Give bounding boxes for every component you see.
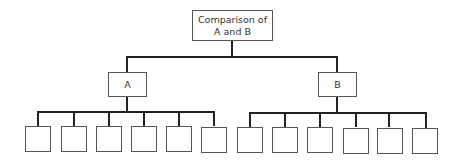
leaf-b2-connector bbox=[284, 112, 286, 127]
leaf-a6 bbox=[201, 127, 227, 153]
leaf-a6-connector bbox=[213, 111, 215, 126]
leaf-a2-connector bbox=[73, 111, 75, 126]
level1-bar bbox=[126, 56, 338, 58]
node-a-label: A bbox=[124, 79, 131, 90]
node-b-label: B bbox=[334, 79, 341, 90]
root-node-label: Comparison of A and B bbox=[198, 14, 267, 38]
root-node: Comparison of A and B bbox=[192, 10, 273, 41]
leaf-a1 bbox=[25, 126, 51, 152]
leaf-a3 bbox=[96, 126, 122, 152]
leaf-b5-connector bbox=[388, 112, 390, 127]
connector-a bbox=[126, 56, 128, 73]
leaf-a2 bbox=[61, 126, 87, 152]
leaf-b4 bbox=[343, 128, 369, 154]
root-label-line1: Comparison of bbox=[198, 14, 267, 26]
leaf-b6-connector bbox=[425, 112, 427, 128]
root-label-line2: A and B bbox=[198, 26, 267, 38]
leaf-b3-connector bbox=[319, 112, 321, 127]
comparison-tree-diagram: Comparison of A and B A B bbox=[0, 0, 461, 164]
leaf-a4 bbox=[131, 126, 157, 152]
connector-b bbox=[336, 56, 338, 73]
leaf-a1-connector bbox=[37, 111, 39, 126]
leaf-b3 bbox=[307, 127, 333, 153]
leaf-a4-connector bbox=[143, 111, 145, 126]
leaf-b1 bbox=[237, 127, 263, 153]
leaf-b6 bbox=[412, 128, 438, 154]
leaf-b4-connector bbox=[355, 112, 357, 127]
leaf-b2 bbox=[272, 127, 298, 153]
leaf-a5 bbox=[166, 126, 192, 152]
level2-bar-b bbox=[249, 112, 427, 114]
leaf-b5 bbox=[377, 128, 403, 154]
node-a: A bbox=[108, 72, 147, 97]
leaf-a5-connector bbox=[178, 111, 180, 126]
node-b: B bbox=[318, 72, 357, 97]
leaf-a3-connector bbox=[108, 111, 110, 126]
level2-bar-a bbox=[37, 111, 215, 113]
leaf-b1-connector bbox=[249, 112, 251, 127]
